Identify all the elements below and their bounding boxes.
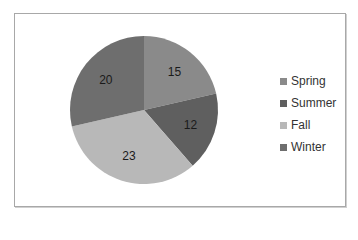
- legend-item-spring: Spring: [280, 70, 336, 92]
- legend-item-fall: Fall: [280, 114, 336, 136]
- legend-label-summer: Summer: [291, 96, 336, 110]
- legend-label-winter: Winter: [291, 140, 326, 154]
- legend: Spring Summer Fall Winter: [280, 70, 336, 158]
- legend-swatch-fall: [280, 122, 287, 129]
- legend-item-winter: Winter: [280, 136, 336, 158]
- data-label-spring: 15: [168, 65, 182, 79]
- legend-swatch-summer: [280, 100, 287, 107]
- data-label-winter: 20: [99, 73, 113, 87]
- legend-label-fall: Fall: [291, 118, 310, 132]
- legend-swatch-winter: [280, 144, 287, 151]
- legend-label-spring: Spring: [291, 74, 326, 88]
- legend-swatch-spring: [280, 78, 287, 85]
- data-label-summer: 12: [184, 118, 198, 132]
- data-label-fall: 23: [122, 149, 136, 163]
- legend-item-summer: Summer: [280, 92, 336, 114]
